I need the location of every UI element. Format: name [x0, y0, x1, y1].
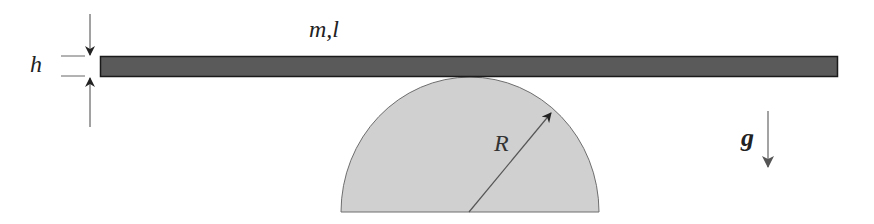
thickness-dimension	[61, 14, 90, 127]
gravity-label: g	[741, 125, 754, 151]
mass-length-label: m,l	[309, 17, 339, 41]
diagram-canvas	[0, 0, 874, 224]
bar	[101, 57, 838, 77]
radius-label: R	[494, 131, 509, 155]
half-cylinder	[341, 77, 599, 212]
thickness-label: h	[30, 52, 42, 76]
